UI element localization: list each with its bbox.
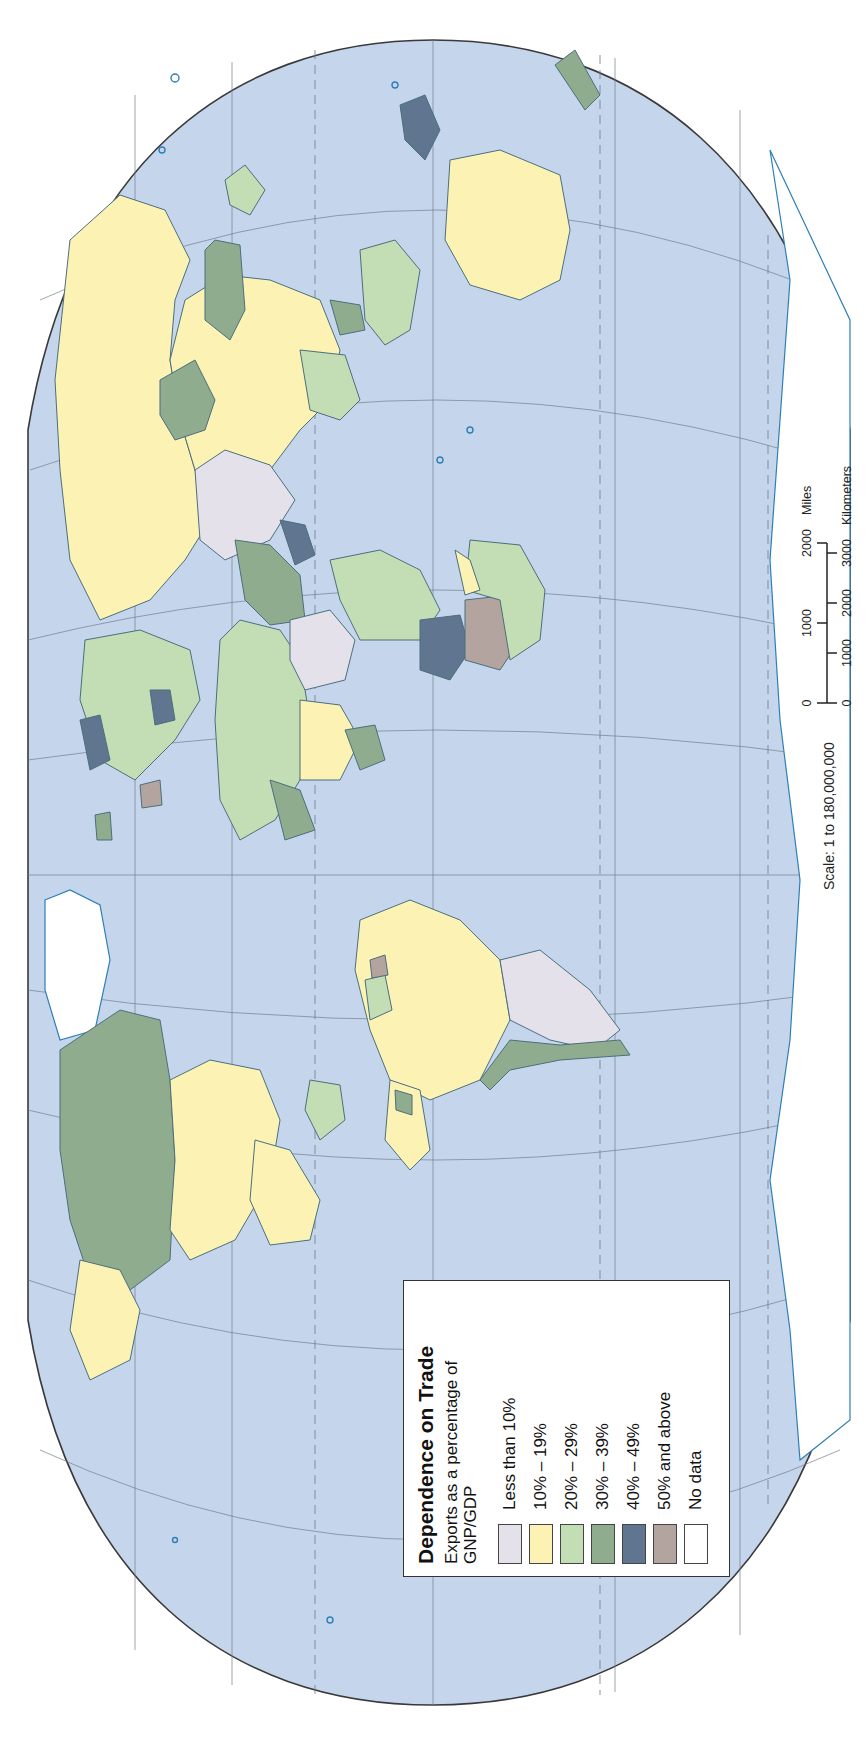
legend-item-30-39: 30% – 39% [587, 1293, 618, 1564]
scale-container: Scale: 1 to 180,000,000 0 1000 2000 Mile… [795, 440, 865, 890]
legend-container: Dependence on Trade Exports as a percent… [403, 1280, 730, 1577]
swatch-30-39 [591, 1524, 615, 1564]
swatch-40-49 [622, 1524, 646, 1564]
scale-bar: 0 1000 2000 Miles 0 1000 2000 3000 Kilom… [795, 445, 865, 715]
miles-tick-0: 0 [800, 699, 814, 706]
km-tick-0: 0 [840, 699, 854, 706]
region-ireland [140, 780, 162, 808]
miles-tick-1000: 1000 [800, 609, 814, 637]
km-tick-2000: 2000 [840, 589, 854, 617]
legend-subtitle-line2: GNP/GDP [461, 1486, 480, 1564]
legend-label: 40% – 49% [624, 1423, 644, 1510]
legend-label: Less than 10% [500, 1398, 520, 1510]
legend-label: 50% and above [655, 1392, 675, 1510]
scale: Scale: 1 to 180,000,000 0 1000 2000 Mile… [795, 440, 865, 890]
legend-item-40-49: 40% – 49% [618, 1293, 649, 1564]
legend-title: Dependence on Trade [414, 1293, 438, 1564]
legend-item-50-above: 50% and above [649, 1293, 680, 1564]
legend-label: No data [686, 1450, 706, 1510]
miles-tick-2000: 2000 [800, 529, 814, 557]
legend-label: 20% – 29% [562, 1423, 582, 1510]
legend-item-less-than-10: Less than 10% [494, 1293, 525, 1564]
swatch-no-data [684, 1524, 708, 1564]
scale-bar-graphic: 0 1000 2000 Miles 0 1000 2000 3000 Kilom… [795, 445, 865, 715]
km-tick-1000: 1000 [840, 639, 854, 667]
km-tick-3000: 3000 [840, 539, 854, 567]
legend-subtitle: Exports as a percentage of GNP/GDP [442, 1293, 480, 1564]
legend-item-10-19: 10% – 19% [525, 1293, 556, 1564]
swatch-less-than-10 [498, 1524, 522, 1564]
region-benelux [150, 690, 175, 725]
legend: Dependence on Trade Exports as a percent… [403, 1280, 730, 1577]
region-iceland [95, 812, 112, 840]
legend-label: 10% – 19% [531, 1423, 551, 1510]
km-label: Kilometers [840, 466, 854, 525]
legend-subtitle-line1: Exports as a percentage of [442, 1361, 461, 1564]
swatch-10-19 [529, 1524, 553, 1564]
swatch-50-above [653, 1524, 677, 1564]
miles-label: Miles [800, 486, 814, 515]
legend-item-20-29: 20% – 29% [556, 1293, 587, 1564]
legend-item-no-data: No data [680, 1293, 711, 1564]
legend-label: 30% – 39% [593, 1423, 613, 1510]
swatch-20-29 [560, 1524, 584, 1564]
scale-ratio-text: Scale: 1 to 180,000,000 [821, 742, 837, 890]
